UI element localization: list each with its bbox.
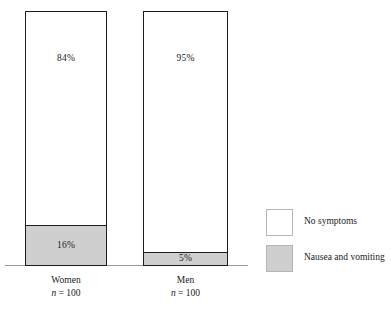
bar-men[interactable]: 95% 5% <box>143 11 228 266</box>
legend-item-no-symptoms[interactable]: No symptoms <box>266 208 357 236</box>
legend-swatch-nausea-and-vomiting <box>266 245 293 272</box>
legend-label-nausea-and-vomiting: Nausea and vomiting <box>304 253 385 263</box>
category-label-women-n: n = 100 <box>25 287 107 300</box>
category-label-men: Men n = 100 <box>143 274 228 300</box>
bar-women-segment-no-symptoms[interactable]: 84% <box>26 12 106 225</box>
category-label-men-name: Men <box>143 274 228 287</box>
bar-men-segment-no-symptoms[interactable]: 95% <box>144 12 227 252</box>
legend-label-no-symptoms: No symptoms <box>304 217 357 227</box>
plot-area: 84% 16% 95% 5% Women n = 100 Men n = 100 <box>0 0 260 280</box>
bar-women[interactable]: 84% 16% <box>25 11 107 266</box>
n-value-women: = 100 <box>59 288 81 298</box>
bar-women-label-nausea: 16% <box>57 241 75 251</box>
n-symbol-women: n <box>51 288 56 298</box>
bar-men-label-nausea: 5% <box>179 254 192 264</box>
bar-women-segment-nausea[interactable]: 16% <box>26 225 106 265</box>
category-label-women: Women n = 100 <box>25 274 107 300</box>
legend-swatch-no-symptoms <box>266 209 293 236</box>
legend-item-nausea-and-vomiting[interactable]: Nausea and vomiting <box>266 244 385 272</box>
category-label-women-name: Women <box>25 274 107 287</box>
category-label-men-n: n = 100 <box>143 287 228 300</box>
stacked-bar-chart: 84% 16% 95% 5% Women n = 100 Men n = 100 <box>0 0 391 313</box>
n-symbol-men: n <box>171 288 176 298</box>
n-value-men: = 100 <box>178 288 200 298</box>
bar-men-label-no-symptoms: 95% <box>144 54 227 64</box>
bar-men-segment-nausea[interactable]: 5% <box>144 252 227 265</box>
bar-women-label-no-symptoms: 84% <box>26 54 106 64</box>
